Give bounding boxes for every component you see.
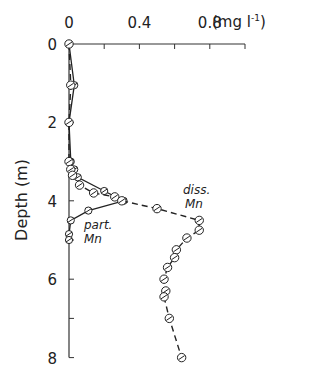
diss-mn-label-line2: Mn bbox=[185, 197, 203, 211]
diss-mn-marker bbox=[75, 181, 83, 189]
y-tick-label: 0 bbox=[47, 36, 57, 54]
diss-mn-marker bbox=[65, 157, 73, 165]
diss-mn-marker bbox=[195, 216, 203, 224]
series-layer bbox=[65, 40, 204, 362]
diss-mn-marker bbox=[153, 204, 161, 212]
part-mn-marker bbox=[85, 207, 92, 214]
y-tick-label: 4 bbox=[47, 193, 57, 211]
diss-mn-marker bbox=[172, 246, 180, 254]
x-tick-label: 0 bbox=[64, 14, 74, 32]
part-mn-marker bbox=[65, 236, 72, 243]
diss-mn-marker bbox=[165, 314, 173, 322]
part-mn-marker bbox=[101, 187, 108, 194]
diss-mn-marker bbox=[177, 353, 185, 361]
part-mn-label-line2: Mn bbox=[84, 232, 102, 246]
diss-mn-marker bbox=[67, 81, 75, 89]
y-tick-label: 2 bbox=[47, 114, 57, 132]
part-mn-line bbox=[69, 44, 124, 240]
diss-mn-marker bbox=[89, 189, 97, 197]
diss-mn-marker bbox=[163, 263, 171, 271]
x-axis-unit-label: (mg l-1) bbox=[212, 13, 266, 31]
y-axis-label: Depth (m) bbox=[12, 159, 31, 241]
diss-mn-marker bbox=[65, 40, 73, 48]
diss-mn-marker bbox=[160, 275, 168, 283]
diss-mn-marker bbox=[170, 253, 178, 261]
diss-mn-marker bbox=[68, 171, 76, 179]
part-mn-marker bbox=[67, 217, 74, 224]
diss-mn-marker bbox=[65, 118, 73, 126]
axes bbox=[69, 44, 245, 358]
part-mn-label-line1: part. bbox=[83, 218, 112, 232]
diss-mn-line bbox=[69, 44, 199, 358]
y-tick-label: 8 bbox=[47, 350, 57, 368]
diss-mn-marker bbox=[118, 197, 126, 205]
x-tick-label: 0.4 bbox=[127, 14, 151, 32]
diss-mn-marker bbox=[160, 293, 168, 301]
y-tick-label: 6 bbox=[47, 271, 57, 289]
diss-mn-marker bbox=[183, 234, 191, 242]
depth-profile-chart: 00.40.802468 (mg l-1) Depth (m) diss. Mn… bbox=[0, 0, 309, 383]
diss-mn-label-line1: diss. bbox=[183, 183, 210, 197]
diss-mn-marker bbox=[195, 226, 203, 234]
